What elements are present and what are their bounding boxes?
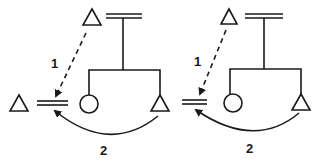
source-triangle-icon xyxy=(221,9,237,24)
source-triangle-icon xyxy=(83,9,101,25)
sibship-bar xyxy=(89,70,160,95)
step1-label: 1 xyxy=(51,56,58,71)
left-panel xyxy=(10,9,169,134)
top-double-line xyxy=(106,14,142,18)
step2-label: 2 xyxy=(246,141,253,156)
step2-label: 2 xyxy=(100,143,107,158)
diagram-canvas: 1 2 1 2 xyxy=(0,0,316,162)
circle-node-icon xyxy=(80,95,98,113)
step1-label: 1 xyxy=(194,54,201,69)
top-double-line xyxy=(245,14,283,18)
step2-curved-arrow xyxy=(55,111,158,134)
diagram-svg: 1 2 1 2 xyxy=(0,0,316,162)
step1-dashed-arrow xyxy=(56,33,86,96)
child-triangle-icon xyxy=(292,94,310,110)
far-triangle-icon xyxy=(10,95,28,111)
right-panel xyxy=(182,9,310,131)
target-double-line xyxy=(182,100,207,104)
target-double-line xyxy=(37,101,68,105)
child-triangle-icon xyxy=(151,95,169,111)
step1-dashed-arrow xyxy=(200,30,226,94)
step2-curved-arrow xyxy=(196,110,299,131)
sibship-bar xyxy=(230,69,301,94)
circle-node-icon xyxy=(224,94,242,112)
